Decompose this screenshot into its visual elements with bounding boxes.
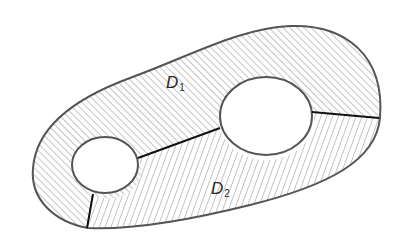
small-hole — [72, 137, 138, 193]
large-hole — [220, 77, 312, 155]
label-d2-subscript: 2 — [224, 188, 230, 199]
region-diagram: D1 D2 — [0, 0, 405, 245]
label-d1: D1 — [166, 74, 185, 93]
label-d2: D2 — [211, 180, 230, 199]
label-d1-letter: D — [166, 73, 178, 92]
region-svg — [0, 0, 405, 245]
label-d1-subscript: 1 — [179, 82, 185, 93]
label-d2-letter: D — [211, 179, 223, 198]
